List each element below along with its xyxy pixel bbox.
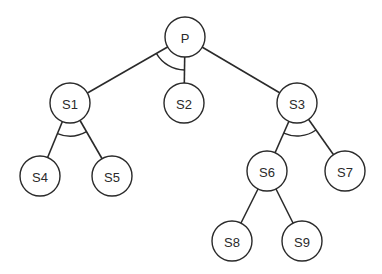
node-label: S4 — [32, 170, 48, 185]
node-label: S3 — [289, 97, 305, 112]
diagram-svg: PS1S2S3S4S5S6S7S8S9 — [0, 0, 382, 274]
node-label: S6 — [259, 165, 275, 180]
node-s7: S7 — [325, 151, 365, 191]
node-label: S1 — [62, 97, 78, 112]
node-s4: S4 — [20, 156, 60, 196]
node-s6: S6 — [247, 151, 287, 191]
node-s5: S5 — [92, 156, 132, 196]
node-label: S5 — [104, 170, 120, 185]
node-label: S9 — [294, 235, 310, 250]
node-label: S8 — [224, 235, 240, 250]
and-arc-s1 — [57, 132, 86, 136]
node-s3: S3 — [277, 83, 317, 123]
and-or-tree-diagram: PS1S2S3S4S5S6S7S8S9 — [0, 0, 382, 274]
node-s9: S9 — [282, 221, 322, 261]
edges — [40, 37, 345, 241]
nodes: PS1S2S3S4S5S6S7S8S9 — [20, 17, 365, 261]
node-p: P — [165, 17, 205, 57]
node-label: S2 — [176, 97, 192, 112]
node-s1: S1 — [50, 83, 90, 123]
node-label: S7 — [337, 165, 353, 180]
node-s8: S8 — [212, 221, 252, 261]
node-s2: S2 — [164, 83, 204, 123]
and-arc-s3 — [284, 130, 316, 136]
node-label: P — [181, 31, 190, 46]
